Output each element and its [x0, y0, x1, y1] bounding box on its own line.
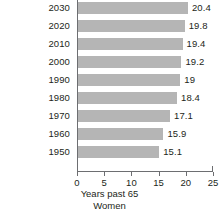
x-axis-tick-label: 20: [171, 177, 201, 188]
category-label: 2020: [0, 17, 70, 35]
bar-value-label: 19.8: [189, 17, 208, 35]
bar: [77, 38, 183, 50]
bar: [77, 20, 185, 32]
category-label: 1950: [0, 143, 70, 161]
category-label: 1980: [0, 89, 70, 107]
bar-chart: 203020.4202019.8201019.4200019.219901919…: [0, 0, 219, 213]
x-axis-tick-mark: [213, 172, 214, 176]
category-label: 2030: [0, 0, 70, 17]
bar-value-label: 19: [184, 71, 195, 89]
x-axis-label: Years past 65: [0, 188, 219, 199]
bar-row: 202019.8: [0, 17, 219, 35]
category-label: 1970: [0, 107, 70, 125]
x-axis-line: [77, 171, 213, 172]
bar: [77, 74, 180, 86]
bar: [77, 110, 170, 122]
x-axis-tick-label: 15: [144, 177, 174, 188]
bar-row: 203020.4: [0, 0, 219, 17]
bar-row: 197017.1: [0, 107, 219, 125]
plot-area: 203020.4202019.8201019.4200019.219901919…: [0, 0, 219, 213]
x-axis-tick-mark: [104, 172, 105, 176]
bar-value-label: 19.4: [187, 35, 206, 53]
category-label: 2010: [0, 35, 70, 53]
x-axis-tick-mark: [186, 172, 187, 176]
bar-row: 195015.1: [0, 143, 219, 161]
bar-value-label: 20.4: [192, 0, 211, 17]
bar-row: 198018.4: [0, 89, 219, 107]
bar: [77, 2, 188, 14]
x-axis-tick-mark: [131, 172, 132, 176]
bar: [77, 92, 177, 104]
bar: [77, 56, 181, 68]
x-axis-tick-mark: [159, 172, 160, 176]
bar-value-label: 15.1: [163, 143, 182, 161]
y-axis-line: [77, 0, 78, 171]
bar: [77, 146, 159, 158]
bar-row: 199019: [0, 71, 219, 89]
bar-value-label: 17.1: [174, 107, 193, 125]
bar-value-label: 15.9: [167, 125, 186, 143]
bar-value-label: 19.2: [185, 53, 204, 71]
x-axis-tick-mark: [77, 172, 78, 176]
bar-value-label: 18.4: [181, 89, 200, 107]
bar: [77, 128, 163, 140]
bar-row: 201019.4: [0, 35, 219, 53]
x-axis-tick-label: 25: [198, 177, 219, 188]
category-label: 2000: [0, 53, 70, 71]
x-axis-tick-label: 10: [116, 177, 146, 188]
bar-row: 200019.2: [0, 53, 219, 71]
bar-rows-container: 203020.4202019.8201019.4200019.219901919…: [0, 0, 219, 171]
x-axis-tick-label: 0: [62, 177, 92, 188]
x-axis-tick-label: 5: [89, 177, 119, 188]
bar-row: 196015.9: [0, 125, 219, 143]
category-label: 1960: [0, 125, 70, 143]
category-label: 1990: [0, 71, 70, 89]
series-caption: Women: [0, 200, 219, 211]
